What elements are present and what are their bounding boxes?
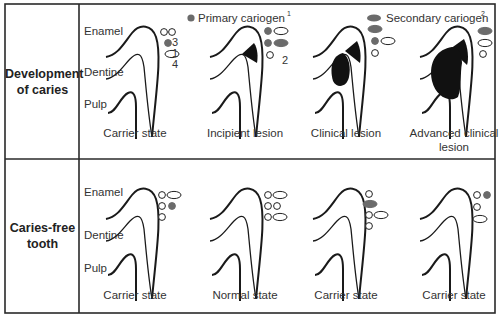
dentine-lesion [431, 47, 462, 99]
label-enamel: Enamel [84, 186, 123, 198]
commensal-microbe-icon [372, 50, 379, 57]
tooth-panel [106, 189, 181, 301]
tooth-panel [210, 27, 288, 139]
panel-caption: Carrier state [314, 289, 377, 301]
primary-cariogen-icon [484, 192, 491, 199]
commensal-microbe-icon [366, 191, 373, 198]
enamel-outline [420, 189, 473, 299]
commensal-microbe-icon [366, 212, 373, 219]
commensal-microbe-icon [480, 51, 487, 58]
count-label: 2 [282, 54, 288, 66]
secondary-cariogen-icon [367, 14, 381, 21]
primary-cariogen-icon [165, 40, 172, 47]
row-label-line: Caries-free [5, 220, 80, 236]
commensal-microbe-icon [273, 213, 287, 220]
row-label-development: Development of caries [5, 66, 80, 98]
legend-secondary-label: Secondary cariogen [386, 12, 488, 24]
tooth-panel [420, 189, 490, 301]
panel-caption: Clinical lesion [311, 127, 381, 139]
layer-labels-row-2: Enamel Dentine Pulp [84, 186, 124, 274]
dentine-lesion [331, 53, 349, 86]
diagram-canvas: Primary cariogen 1 Secondary cariogen 2 … [0, 0, 499, 318]
row-label-caries-free: Caries-free tooth [5, 220, 80, 252]
commensal-microbe-icon [274, 27, 288, 34]
panel-caption-line2: lesion [439, 141, 469, 153]
commensal-microbe-icon [159, 214, 166, 221]
enamel-lesion [242, 43, 258, 63]
commensal-microbe-icon [161, 29, 168, 36]
panel-caption: Incipient lesion [207, 127, 283, 139]
commensal-microbe-icon [265, 214, 272, 221]
row-label-line: tooth [5, 236, 80, 252]
label-pulp: Pulp [84, 262, 107, 274]
enamel-outline [210, 189, 263, 299]
enamel-outline [210, 27, 263, 137]
secondary-cariogen-icon [274, 39, 288, 46]
primary-cariogen-icon [187, 14, 194, 21]
panel-caption: Carrier state [103, 127, 166, 139]
primary-cariogen-icon [265, 28, 272, 35]
tooth-panels: Carrier stateIncipient lesionClinical le… [103, 25, 498, 301]
legend-primary-label: Primary cariogen [198, 12, 285, 24]
commensal-microbe-icon [473, 215, 487, 222]
panel-caption: Normal state [212, 289, 277, 301]
commensal-microbe-icon [167, 191, 181, 198]
row-label-line: of caries [5, 82, 80, 98]
commensal-microbe-icon [159, 203, 166, 210]
secondary-cariogen-icon [478, 27, 492, 34]
dentine-outline [313, 216, 359, 299]
secondary-cariogen-icon [368, 25, 382, 32]
row-label-line: Development [5, 66, 80, 82]
commensal-microbe-icon [267, 52, 274, 59]
enamel-outline [106, 27, 159, 137]
commensal-microbe-icon [478, 39, 492, 46]
dentine-outline [210, 216, 256, 299]
panel-caption: Carrier state [422, 289, 485, 301]
count-label: 4 [172, 58, 178, 70]
commensal-microbe-icon [159, 192, 166, 199]
primary-cariogen-icon [265, 40, 272, 47]
layer-labels-row-1: Enamel Dentine Pulp [84, 25, 124, 110]
commensal-microbe-icon [474, 204, 481, 211]
primary-cariogen-icon [169, 203, 176, 210]
commensal-microbe-icon [169, 29, 176, 36]
commensal-microbe-icon [274, 203, 281, 210]
legend-primary-superscript: 1 [287, 10, 291, 17]
secondary-cariogen-icon [363, 200, 377, 207]
label-pulp: Pulp [84, 98, 107, 110]
commensal-microbe-icon [265, 203, 272, 210]
commensal-microbe-icon [474, 192, 481, 199]
tooth-panel [313, 25, 395, 139]
dentine-outline [210, 54, 256, 137]
primary-cariogen-icon [372, 38, 379, 45]
caries-diagram: Primary cariogen 1 Secondary cariogen 2 … [0, 0, 499, 318]
commensal-microbe-icon [265, 192, 272, 199]
enamel-outline [313, 189, 366, 299]
tooth-panel [313, 189, 388, 301]
panel-caption: Carrier state [103, 289, 166, 301]
enamel-outline [106, 189, 159, 299]
commensal-microbe-icon [366, 223, 373, 230]
commensal-microbe-icon [273, 191, 287, 198]
panel-caption: Advanced clinical [410, 127, 499, 139]
tooth-panel [106, 27, 179, 139]
commensal-microbe-icon [381, 37, 395, 44]
dentine-outline [420, 216, 466, 299]
tooth-panel [210, 189, 287, 301]
legend-secondary-superscript: 2 [481, 10, 485, 17]
legend: Primary cariogen 1 Secondary cariogen 2 [187, 10, 488, 24]
label-enamel: Enamel [84, 25, 123, 37]
tooth-panel [420, 27, 492, 139]
commensal-microbe-icon [374, 211, 388, 218]
